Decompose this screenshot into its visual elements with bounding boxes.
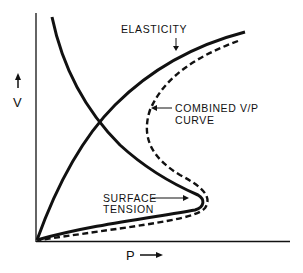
combined-label-line2: CURVE xyxy=(175,114,215,126)
surface-tension-pointer-arrowhead xyxy=(183,195,189,201)
surface-tension-label-line2: TENSION xyxy=(103,203,154,215)
combined-label-line1: COMBINED V/P xyxy=(175,102,259,114)
elasticity-label: ELASTICITY xyxy=(121,23,187,35)
right-arrow-icon-head xyxy=(156,252,163,258)
up-arrow-icon-head xyxy=(15,73,21,80)
elasticity-pointer-arrowhead xyxy=(173,46,179,51)
y-axis-label: V xyxy=(13,95,22,110)
x-axis-label: P xyxy=(126,248,135,263)
combined-pointer-arrowhead xyxy=(151,105,157,111)
pressure-volume-diagram: ELASTICITY COMBINED V/P CURVE SURFACE TE… xyxy=(0,0,303,273)
